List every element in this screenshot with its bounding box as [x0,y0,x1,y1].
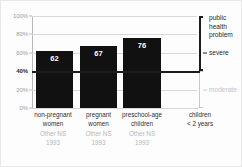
ytick-label-100: 100% [13,13,28,19]
gridline-0 [32,108,197,109]
category-name-line1: children [172,111,228,120]
category-label-children-under-2-years: children < 2 years [172,111,228,128]
severity-bracket-public-health-problem [199,16,203,71]
ytick-mark-60 [29,52,32,53]
severity-label-line1: public [209,14,226,21]
category-label-preschool-age-children: preschool-age children Other NS 1993 [112,111,172,147]
category-name-line2: < 2 years [172,120,228,129]
severity-tick-moderate [203,89,207,90]
severity-label-moderate: moderate [209,85,237,94]
ytick-mark-80 [29,34,32,35]
bar-value-label: 67 [80,49,117,58]
severity-label-severe: severe [209,49,229,58]
ytick-label-20: 20% [16,87,28,93]
chart-screenshot: 100% 80% 60% 40% 20% 0% 62 67 76 non-pre… [0,0,242,167]
threshold-line-40 [32,71,200,73]
category-year: 1993 [112,139,172,148]
ytick-label-40: 40% [16,68,28,74]
plot-area: 100% 80% 60% 40% 20% 0% 62 67 76 [32,16,197,108]
ytick-mark-20 [29,89,32,90]
ytick-label-80: 80% [16,31,28,37]
severity-label-public-health-problem: public health problem [209,14,233,40]
severity-legend: public health problem severe moderate [199,16,242,109]
bar-non-pregnant-women[interactable]: 62 [36,51,73,108]
category-name-line2: children [112,120,172,129]
gridline-100 [32,16,197,17]
category-name-line1: preschool-age [112,111,172,120]
bar-value-label: 76 [123,41,161,50]
severity-label-line2: health [209,23,227,30]
bar-pregnant-women[interactable]: 67 [80,46,117,108]
ytick-mark-0 [29,108,32,109]
severity-tick-severe [203,52,207,53]
gridline-80 [32,34,197,35]
category-source: Other NS [112,130,172,139]
severity-label-line3: problem [209,31,233,38]
ytick-mark-100 [29,16,32,17]
bar-value-label: 62 [36,54,73,63]
ytick-label-60: 60% [16,50,28,56]
category-labels: non-pregnant women Other NS 1993 pregnan… [32,111,242,161]
